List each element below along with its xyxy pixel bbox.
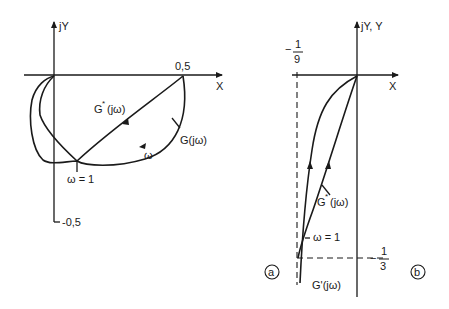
svg-text:−: − xyxy=(370,252,376,264)
label-omega1-b: ω = 1 xyxy=(313,231,340,243)
curve-g-prime-b xyxy=(300,76,357,283)
figure-b: jY, Y X − 1 9 − 1 3 G * (jω) ω = 1 G'(jω… xyxy=(265,20,425,297)
svg-text:3: 3 xyxy=(380,260,386,272)
x-axis-label-a: X xyxy=(216,80,224,92)
panel-label-a: a xyxy=(268,266,275,278)
arrow-head-icon xyxy=(307,161,313,169)
svg-text:*: * xyxy=(325,192,328,201)
nyquist-diagram: jY X 0,5 -0,5 G * (jω) G(jω) ω ω = 1 jY,… xyxy=(0,0,449,309)
label-g-star-b: G * (jω) xyxy=(317,192,348,208)
tick-bottom-b: − 1 3 xyxy=(370,245,389,272)
tick-y-a-label: -0,5 xyxy=(62,216,81,228)
svg-text:(jω): (jω) xyxy=(107,103,125,115)
svg-text:−: − xyxy=(285,43,291,55)
label-g-a: G(jω) xyxy=(180,134,207,146)
svg-text:9: 9 xyxy=(294,53,300,65)
g-leader-a xyxy=(172,118,180,128)
label-omega-a: ω xyxy=(144,149,153,161)
svg-text:1: 1 xyxy=(295,38,301,50)
figure-a: jY X 0,5 -0,5 G * (jω) G(jω) ω ω = 1 xyxy=(24,20,224,228)
svg-text:*: * xyxy=(102,99,105,108)
panel-label-b: b xyxy=(414,266,420,278)
label-g-star-a: G * (jω) xyxy=(94,99,125,115)
tick-left-b: − 1 9 xyxy=(285,38,303,65)
y-axis-label-a: jY xyxy=(58,20,69,32)
curve-g-star-a xyxy=(40,76,183,161)
svg-text:(jω): (jω) xyxy=(330,196,348,208)
x-axis-label-b: X xyxy=(389,80,397,92)
y-axis-label-b: jY, Y xyxy=(360,20,383,32)
label-omega1-a: ω = 1 xyxy=(67,173,94,185)
svg-text:1: 1 xyxy=(381,245,387,257)
tick-x-a: 0,5 xyxy=(175,60,190,72)
label-g-prime-b: G'(jω) xyxy=(312,279,341,291)
